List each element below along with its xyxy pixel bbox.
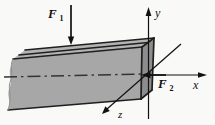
force-f1-label: F [47,6,57,21]
force-f2-subscript: 2 [170,84,174,93]
y-axis-label: y [154,6,161,20]
beam-front-right-edge [141,47,142,99]
diagram-canvas: F 1 F 2 x y z [0,0,215,125]
x-axis-label: x [192,78,199,92]
force-f1-subscript: 1 [60,14,64,23]
force-f2-label: F [157,76,167,91]
z-axis-label: z [117,108,123,120]
beam-section-diagram: F 1 F 2 x y z [0,0,215,125]
